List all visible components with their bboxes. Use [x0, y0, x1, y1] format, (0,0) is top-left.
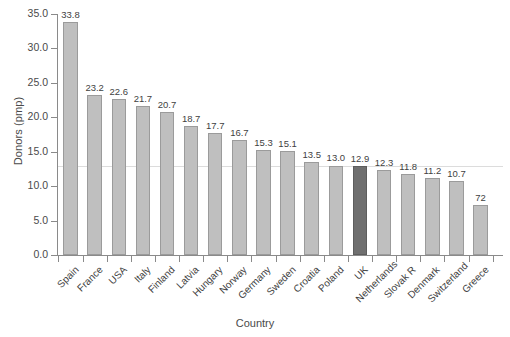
bar-poland — [329, 166, 343, 256]
y-axis-tick — [51, 83, 58, 84]
y-axis-tick-label: 0.0 — [8, 248, 48, 260]
x-axis-tick — [420, 256, 421, 262]
bar-hungary — [208, 133, 222, 255]
bar-slovak-r — [401, 174, 415, 255]
x-axis-tick — [179, 256, 180, 262]
bar-france — [87, 95, 101, 255]
bar-uk — [353, 166, 367, 255]
y-axis-tick-label: 30.0 — [8, 41, 48, 53]
x-axis-tick — [251, 256, 252, 262]
bar-value-label: 10.7 — [440, 168, 472, 179]
x-axis-tick — [396, 256, 397, 262]
bar-spain — [63, 22, 77, 255]
bar-value-label: 33.8 — [55, 9, 87, 20]
x-axis-tick — [300, 256, 301, 262]
bar-value-label: 15.1 — [272, 138, 304, 149]
y-axis-tick — [51, 255, 58, 256]
bar-germany — [256, 150, 270, 255]
x-axis-tick — [107, 256, 108, 262]
y-axis-tick-label: 10.0 — [8, 179, 48, 191]
x-axis-tick — [444, 256, 445, 262]
x-axis-tick — [58, 256, 59, 262]
y-axis-tick-label: 15.0 — [8, 145, 48, 157]
x-axis-tick — [469, 256, 470, 262]
x-axis-title: Country — [0, 317, 510, 329]
x-axis-tick — [131, 256, 132, 262]
y-axis-tick-label: 20.0 — [8, 110, 48, 122]
bar-value-label: 20.7 — [151, 99, 183, 110]
bar-sweden — [280, 151, 294, 255]
y-axis-tick — [51, 221, 58, 222]
y-axis-tick-label: 35.0 — [8, 7, 48, 19]
y-axis-tick — [51, 186, 58, 187]
y-axis-tick-label: 25.0 — [8, 76, 48, 88]
bar-value-label: 72 — [465, 192, 497, 203]
x-axis-tick — [324, 256, 325, 262]
donors-bar-chart: Donors (pmp) 0.05.010.015.020.025.030.03… — [0, 0, 510, 337]
bar-norway — [232, 140, 246, 255]
x-axis-line — [57, 255, 503, 256]
x-axis-tick — [372, 256, 373, 262]
bar-switzerland — [449, 181, 463, 255]
bar-denmark — [425, 178, 439, 255]
bar-greece — [473, 205, 487, 255]
y-axis-tick — [51, 152, 58, 153]
x-axis-tick — [493, 256, 494, 262]
bar-croatia — [304, 162, 318, 255]
x-axis-tick — [83, 256, 84, 262]
bar-finland — [160, 112, 174, 255]
x-axis-tick — [227, 256, 228, 262]
y-axis-tick — [51, 117, 58, 118]
y-axis-tick — [51, 48, 58, 49]
plot-area: 33.823.222.621.720.718.717.716.715.315.1… — [58, 14, 503, 255]
x-axis-tick — [155, 256, 156, 262]
x-axis-tick — [276, 256, 277, 262]
x-axis-tick — [348, 256, 349, 262]
x-axis-tick — [203, 256, 204, 262]
bar-latvia — [184, 126, 198, 255]
bar-netherlands — [377, 170, 391, 255]
bar-usa — [112, 99, 126, 255]
bar-italy — [136, 106, 150, 255]
y-axis-tick-label: 5.0 — [8, 214, 48, 226]
